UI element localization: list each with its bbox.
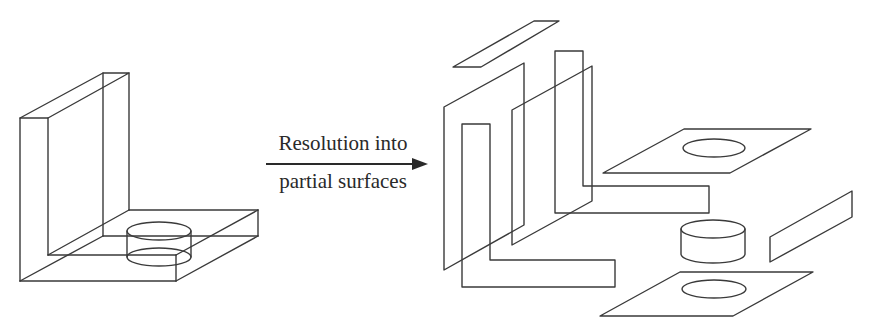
cylinder-boss (127, 222, 191, 266)
surface-base-bottom (600, 272, 813, 316)
surface-base-top (603, 129, 811, 173)
surface-top-strip (453, 21, 559, 67)
hole-lower (682, 280, 746, 298)
figure: Resolution into partial surfaces (0, 0, 869, 331)
hole-upper (683, 139, 745, 157)
solid-l-bracket (20, 73, 258, 281)
surface-right-strip (770, 191, 852, 262)
transition-label-line-2: partial surfaces (258, 169, 428, 193)
partial-surfaces (444, 21, 852, 316)
diagram-canvas (0, 0, 869, 331)
surface-cylinder (681, 220, 745, 263)
surface-back-l-face (555, 51, 709, 213)
transition-label-line-1: Resolution into (258, 131, 428, 155)
